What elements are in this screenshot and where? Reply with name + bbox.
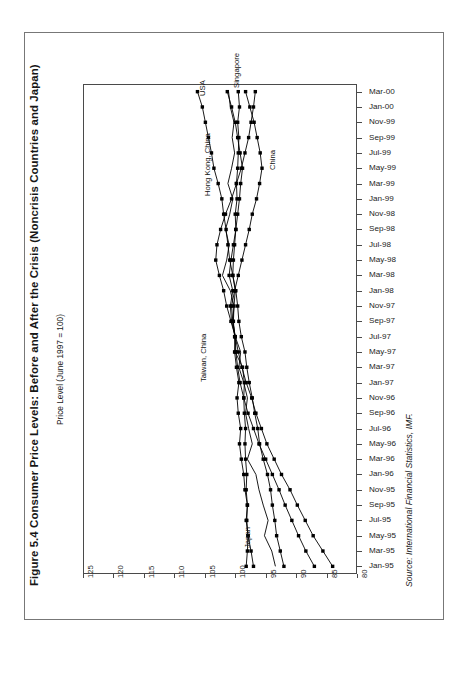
date-tick-mark [357, 429, 362, 430]
value-tick-mark [235, 574, 236, 578]
date-tick-label: Jul-98 [369, 240, 391, 249]
value-tick-label: 110 [177, 566, 186, 578]
value-tick-mark [144, 574, 145, 578]
date-tick-label: Jan-00 [369, 102, 394, 111]
value-tick-label: 85 [330, 570, 339, 578]
date-tick-label: Sep-95 [369, 500, 395, 509]
plot-area [83, 84, 357, 574]
date-tick-label: Sep-98 [369, 224, 395, 233]
date-tick-label: Mar-95 [369, 546, 395, 555]
date-tick-mark [357, 383, 362, 384]
value-tick-label: 90 [299, 570, 308, 578]
date-tick-label: Jan-96 [369, 469, 394, 478]
date-tick-label: Mar-96 [369, 454, 395, 463]
date-tick-mark [357, 398, 362, 399]
date-tick-mark [357, 566, 362, 567]
date-tick-label: Jan-99 [369, 194, 394, 203]
date-tick-label: Nov-95 [369, 485, 395, 494]
date-tick-label: Jul-97 [369, 332, 391, 341]
date-tick-label: Sep-97 [369, 316, 395, 325]
date-tick-mark [357, 505, 362, 506]
date-tick-label: Mar-98 [369, 270, 395, 279]
date-tick-label: Sep-99 [369, 133, 395, 142]
date-tick-label: Nov-98 [369, 209, 395, 218]
date-tick-mark [357, 214, 362, 215]
source-note: Source: International Financial Statisti… [404, 387, 414, 587]
series-label-taiwan-china: Taiwan, China [199, 334, 208, 382]
value-tick-mark [296, 574, 297, 578]
value-tick-label: 115 [147, 566, 156, 578]
value-tick-label: 80 [360, 570, 369, 578]
date-tick-mark [357, 92, 362, 93]
value-tick-mark [327, 574, 328, 578]
date-tick-mark [357, 490, 362, 491]
value-tick-label: 105 [208, 565, 217, 578]
date-tick-mark [357, 413, 362, 414]
date-tick-label: Mar-00 [369, 87, 395, 96]
date-tick-mark [357, 306, 362, 307]
date-tick-mark [357, 260, 362, 261]
series-label-china: China [268, 150, 277, 170]
date-tick-mark [357, 337, 362, 338]
date-tick-label: May-95 [369, 531, 396, 540]
date-tick-mark [357, 153, 362, 154]
figure-page: Figure 5.4 Consumer Price Levels: Before… [0, 0, 475, 676]
value-tick-label: 125 [86, 565, 95, 578]
date-tick-mark [357, 245, 362, 246]
series-label-hong-kong-china: Hong Kong, China [203, 133, 212, 196]
value-tick-mark [357, 574, 358, 578]
date-tick-mark [357, 459, 362, 460]
date-tick-mark [357, 122, 362, 123]
date-tick-label: May-97 [369, 347, 396, 356]
value-tick-mark [174, 574, 175, 578]
series-canvas [83, 84, 357, 574]
series-label-singapore: Singapore [232, 53, 241, 88]
date-tick-mark [357, 444, 362, 445]
date-tick-label: Jan-98 [369, 286, 394, 295]
date-tick-label: Mar-99 [369, 179, 395, 188]
series-label-japan: Japan [243, 527, 252, 548]
figure-title: Figure 5.4 Consumer Price Levels: Before… [28, 26, 40, 586]
value-tick-mark [266, 574, 267, 578]
date-tick-mark [357, 275, 362, 276]
value-tick-label: 120 [116, 565, 125, 578]
date-tick-label: Nov-96 [369, 393, 395, 402]
date-tick-label: Jul-99 [369, 148, 391, 157]
date-tick-label: Jan-97 [369, 378, 394, 387]
date-tick-mark [357, 199, 362, 200]
date-tick-label: Jan-95 [369, 561, 394, 570]
date-tick-mark [357, 367, 362, 368]
date-tick-label: Sep-96 [369, 408, 395, 417]
date-tick-mark [357, 138, 362, 139]
date-tick-mark [357, 352, 362, 353]
date-tick-label: Mar-97 [369, 362, 395, 371]
date-tick-mark [357, 474, 362, 475]
value-axis-label: Price Level (June 1997 = 100) [55, 225, 65, 425]
date-tick-mark [357, 184, 362, 185]
date-tick-label: Nov-97 [369, 301, 395, 310]
date-tick-mark [357, 536, 362, 537]
date-tick-label: May-98 [369, 255, 396, 264]
series-label-usa: USA [198, 80, 207, 96]
value-tick-mark [83, 574, 84, 578]
date-tick-mark [357, 551, 362, 552]
series-hong-kong-china [214, 90, 316, 568]
value-tick-label: 100 [238, 565, 247, 578]
date-tick-label: May-96 [369, 439, 396, 448]
date-tick-mark [357, 229, 362, 230]
date-tick-label: Jul-96 [369, 424, 391, 433]
date-tick-label: Nov-99 [369, 117, 395, 126]
date-tick-mark [357, 520, 362, 521]
date-tick-mark [357, 321, 362, 322]
date-tick-mark [357, 168, 362, 169]
value-tick-mark [113, 574, 114, 578]
date-tick-mark [357, 107, 362, 108]
date-tick-label: May-99 [369, 163, 396, 172]
date-tick-mark [357, 291, 362, 292]
date-tick-label: Jul-95 [369, 515, 391, 524]
value-tick-mark [205, 574, 206, 578]
value-tick-label: 95 [269, 570, 278, 578]
